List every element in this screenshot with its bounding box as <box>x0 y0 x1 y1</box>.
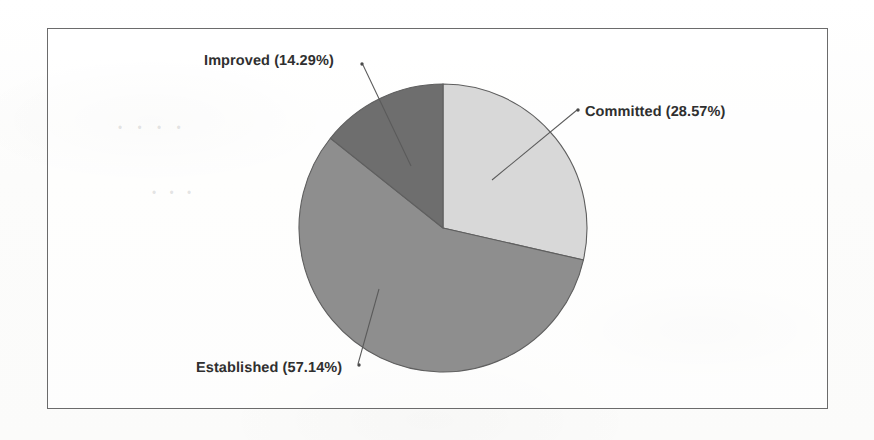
leader-dot-established <box>357 363 360 366</box>
pie-chart <box>0 0 874 440</box>
leader-dot-committed <box>576 108 579 111</box>
pie-slice-group <box>299 84 587 372</box>
leader-dot-improved <box>360 62 363 65</box>
pie-label-established: Established (57.14%) <box>196 360 342 376</box>
pie-label-committed: Committed (28.57%) <box>585 104 725 120</box>
pie-label-improved: Improved (14.29%) <box>204 53 334 69</box>
